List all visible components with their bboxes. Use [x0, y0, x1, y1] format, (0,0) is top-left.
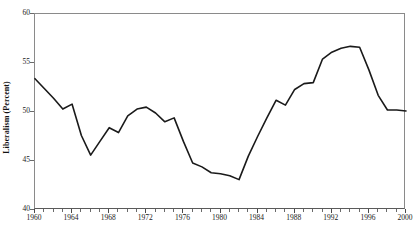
x-tick-mark-minor	[396, 209, 397, 212]
x-tick-mark-minor	[340, 209, 341, 212]
x-tick-mark-minor	[247, 209, 248, 212]
x-tick-mark-minor	[80, 209, 81, 212]
x-tick-mark-minor	[229, 209, 230, 212]
x-tick-label: 1984	[240, 213, 274, 222]
x-tick-mark-minor	[284, 209, 285, 212]
x-tick-label: 1996	[351, 213, 385, 222]
x-tick-mark-minor	[164, 209, 165, 212]
x-tick-mark-minor	[173, 209, 174, 212]
x-tick-label: 1964	[54, 213, 88, 222]
x-tick-label: 1988	[277, 213, 311, 222]
x-tick-label: 1976	[165, 213, 199, 222]
chart-figure: Liberalism (Percent) 6055504540 19601964…	[0, 0, 415, 235]
x-tick-label: 1968	[91, 213, 125, 222]
x-tick-mark-minor	[117, 209, 118, 212]
x-tick-mark-minor	[136, 209, 137, 212]
x-tick-mark-minor	[322, 209, 323, 212]
x-tick-mark-minor	[303, 209, 304, 212]
x-tick-mark-minor	[155, 209, 156, 212]
x-tick-mark-minor	[377, 209, 378, 212]
x-tick-mark-minor	[90, 209, 91, 212]
x-tick-mark-minor	[210, 209, 211, 212]
x-tick-label: 1992	[314, 213, 348, 222]
x-tick-mark-minor	[62, 209, 63, 212]
x-tick-mark-minor	[266, 209, 267, 212]
x-tick-mark-minor	[201, 209, 202, 212]
x-tick-mark-minor	[312, 209, 313, 212]
x-tick-mark-minor	[349, 209, 350, 212]
x-tick-mark-minor	[53, 209, 54, 212]
x-tick-label: 1980	[203, 213, 237, 222]
series-liberalism	[35, 14, 406, 210]
x-tick-mark-minor	[275, 209, 276, 212]
x-tick-mark-minor	[99, 209, 100, 212]
x-tick-mark-minor	[359, 209, 360, 212]
x-tick-mark-minor	[127, 209, 128, 212]
x-tick-label: 1972	[128, 213, 162, 222]
x-tick-mark-minor	[238, 209, 239, 212]
line-series-liberalism	[35, 46, 406, 179]
x-tick-mark-minor	[43, 209, 44, 212]
x-tick-label: 2000	[388, 213, 415, 222]
x-tick-label: 1960	[17, 213, 51, 222]
x-tick-mark-minor	[386, 209, 387, 212]
y-axis-title: Liberalism (Percent)	[0, 0, 14, 235]
x-tick-mark-minor	[192, 209, 193, 212]
plot-area	[34, 13, 405, 209]
